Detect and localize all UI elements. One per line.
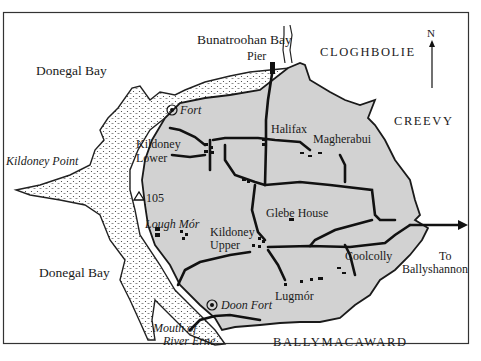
water-label-donegal-bay-south: Donegal Bay — [39, 266, 110, 280]
compass-label: N — [427, 28, 435, 39]
water-label-donegal-bay-north: Donegal Bay — [36, 64, 107, 78]
road-exit-ballyshannon: Ballyshannon — [402, 263, 468, 275]
feature-river-erne: River Erne — [163, 335, 215, 347]
place-kildoney-upper-line1: Kildoney — [210, 226, 255, 238]
townland-ballymacaward: BALLYMACAWARD — [273, 336, 408, 349]
feature-lough-mor: Lough Mór — [145, 218, 199, 230]
feature-kildoney-point: Kildoney Point — [6, 155, 78, 167]
place-glebe-house: Glebe House — [266, 207, 328, 219]
place-magherabui: Magherabui — [313, 133, 371, 145]
feature-fort: Fort — [180, 104, 201, 116]
place-halifax: Halifax — [271, 123, 307, 135]
place-lugmor: Lugmór — [275, 290, 314, 302]
pier-icon — [270, 62, 275, 74]
place-coolcolly: Coolcolly — [345, 250, 392, 262]
feature-mouth-of: Mouth of — [153, 322, 197, 334]
spot-height-value: 105 — [146, 192, 164, 204]
townland-cloghbolie: CLOGHBOLIE — [320, 46, 416, 59]
place-kildoney-upper-line2: Upper — [210, 239, 240, 251]
feature-doon-fort: Doon Fort — [221, 299, 272, 311]
townland-creevy: CREEVY — [394, 115, 454, 128]
place-kildoney-lower-line1: Kildoney — [136, 138, 181, 150]
water-label-bunatroohan-bay: Bunatroohan Bay — [197, 33, 292, 47]
road-exit-to: To — [439, 250, 452, 262]
place-kildoney-lower-line2: Lower — [136, 152, 167, 164]
place-pier: Pier — [247, 50, 266, 62]
